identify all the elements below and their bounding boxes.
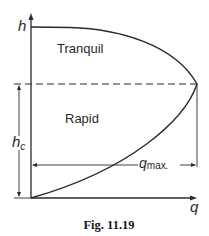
hc-bottom-arrow-icon — [17, 192, 21, 197]
specific-energy-curve — [31, 27, 197, 198]
y-axis-label: h — [18, 17, 26, 34]
x-axis-label: q — [190, 198, 199, 215]
qmax-left-arrow-icon — [32, 163, 37, 167]
figure-caption: Fig. 11.19 — [83, 218, 134, 232]
y-axis-arrow-icon — [29, 13, 34, 20]
max-flow-label: qmax. — [139, 155, 168, 171]
hc-top-arrow-icon — [17, 85, 21, 90]
qmax-right-arrow-icon — [191, 163, 196, 167]
region-label-tranquil: Tranquil — [57, 41, 104, 56]
critical-depth-label: hc — [12, 133, 25, 152]
discharge-depth-diagram: h Tranquil Rapid hc qmax. q Fig. 11.19 — [0, 0, 209, 236]
region-label-rapid: Rapid — [65, 111, 99, 126]
